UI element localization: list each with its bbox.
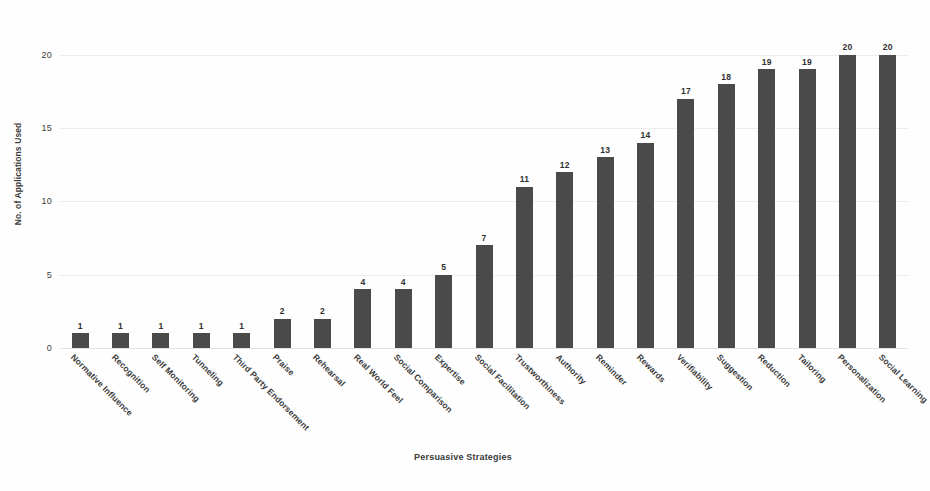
bar-rect[interactable] [72,333,89,348]
x-axis-line [60,348,908,349]
y-axis-tick-label: 0 [47,343,52,353]
bar-value-label: 20 [842,43,852,52]
bar-rect[interactable] [597,157,614,348]
bar-rect[interactable] [233,333,250,348]
bar-item[interactable]: 18 [706,40,746,348]
bar-value-label: 1 [239,322,244,331]
bar-value-label: 4 [360,278,365,287]
x-axis-tick-label: Reminder [594,352,629,387]
bar-value-label: 2 [280,307,285,316]
x-axis-tick-label: Third Party Endorsement [231,352,312,433]
x-axis-tick-label: Rehearsal [311,352,347,388]
bar-item[interactable]: 12 [545,40,585,348]
bar-value-label: 13 [600,146,610,155]
bar-rect[interactable] [152,333,169,348]
bar-item[interactable]: 17 [666,40,706,348]
bar-item[interactable]: 1 [222,40,262,348]
bar-item[interactable]: 5 [424,40,464,348]
bar-value-label: 1 [199,322,204,331]
bar-rect[interactable] [516,187,533,348]
x-axis-tick-label: Suggestion [715,352,756,393]
x-axis-tick-label: Verifiability [675,352,715,392]
bar-rect[interactable] [274,319,291,348]
bar-item[interactable]: 19 [787,40,827,348]
plot-area: 05101520 1111122445711121314171819192020 [60,40,908,348]
bar-item[interactable]: 13 [585,40,625,348]
bar-rect[interactable] [758,69,775,348]
bar-value-label: 2 [320,307,325,316]
bar-item[interactable]: 4 [383,40,423,348]
bar-value-label: 1 [158,322,163,331]
bar-rect[interactable] [677,99,694,348]
bar-value-label: 17 [681,87,691,96]
bar-value-label: 20 [883,43,893,52]
bar-item[interactable]: 20 [868,40,908,348]
bar-value-label: 1 [78,322,83,331]
bar-item[interactable]: 20 [827,40,867,348]
bar-value-label: 19 [762,58,772,67]
y-axis-tick-label: 5 [47,270,52,280]
bar-value-label: 1 [118,322,123,331]
bar-item[interactable]: 19 [747,40,787,348]
y-axis-tick-label: 15 [42,123,52,133]
bar-item[interactable]: 4 [343,40,383,348]
x-axis-tick-label: Reduction [756,352,793,389]
bar-value-label: 19 [802,58,812,67]
bar-rect[interactable] [839,55,856,348]
bar-item[interactable]: 1 [181,40,221,348]
bar-rect[interactable] [718,84,735,348]
bar-item[interactable]: 7 [464,40,504,348]
bar-item[interactable]: 11 [504,40,544,348]
x-axis-tick-label: Rewards [634,352,667,385]
bar-rect[interactable] [193,333,210,348]
bar-value-label: 7 [482,234,487,243]
bar-value-label: 14 [641,131,651,140]
x-axis-tick-label: Tailoring [796,352,829,385]
x-axis-tick-labels: Normative InfluenceRecognitionSelf Monit… [60,352,908,462]
x-axis-tick-label: Expertise [433,352,468,387]
bar-item[interactable]: 1 [141,40,181,348]
bar-rect[interactable] [354,289,371,348]
bar-value-label: 4 [401,278,406,287]
bar-rect[interactable] [112,333,129,348]
x-axis-tick-label: Recognition [109,352,152,395]
x-axis-title: Persuasive Strategies [0,452,926,462]
bar-rect[interactable] [637,143,654,348]
bar-item[interactable]: 1 [60,40,100,348]
bar-value-label: 5 [441,263,446,272]
bar-value-label: 12 [560,161,570,170]
bar-item[interactable]: 2 [262,40,302,348]
bar-rect[interactable] [879,55,896,348]
y-axis-title: No. of Applications Used [13,123,23,226]
bar-rect[interactable] [395,289,412,348]
bar-value-label: 18 [721,73,731,82]
x-axis-tick-label: Tunneling [190,352,226,388]
bar-series: 1111122445711121314171819192020 [60,40,908,348]
bar-item[interactable]: 14 [626,40,666,348]
y-axis-tick-label: 10 [42,196,52,206]
y-axis-tick-label: 20 [42,50,52,60]
bar-rect[interactable] [476,245,493,348]
bar-rect[interactable] [314,319,331,348]
bar-item[interactable]: 1 [101,40,141,348]
bar-rect[interactable] [799,69,816,348]
bar-value-label: 11 [520,175,529,184]
bar-rect[interactable] [435,275,452,348]
x-axis-tick-label: Praise [271,352,297,378]
bar-item[interactable]: 2 [302,40,342,348]
bar-rect[interactable] [556,172,573,348]
x-axis-tick-label: Authority [554,352,588,386]
